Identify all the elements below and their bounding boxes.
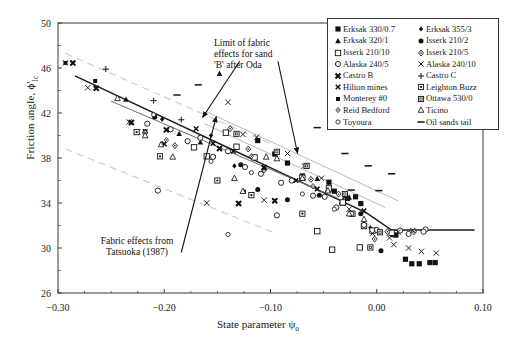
legend-item[interactable]: Ottawa 530/0 xyxy=(415,93,498,105)
legend-marker xyxy=(415,70,426,81)
data-point xyxy=(418,27,422,32)
y-tick-label: 38 xyxy=(41,153,51,164)
y-axis-label-subscript: lc xyxy=(31,76,40,82)
data-point xyxy=(310,179,312,181)
legend-item[interactable]: Castro C xyxy=(415,69,498,81)
data-point xyxy=(419,86,421,88)
legend-marker xyxy=(332,93,343,104)
data-point xyxy=(409,261,414,266)
legend-label: Isserk 210/5 xyxy=(426,47,468,57)
legend-item[interactable]: Erksak 330/0.7 xyxy=(332,23,415,35)
legend-item[interactable]: Hilton mines xyxy=(332,81,415,93)
data-point xyxy=(342,191,347,196)
data-point xyxy=(255,187,260,192)
data-point xyxy=(170,154,176,159)
legend-marker-open-square xyxy=(333,48,343,58)
data-point xyxy=(185,139,190,144)
y-axis-label-symbol: ϕ' xyxy=(24,81,36,89)
legend-label: Alaska 240/10 xyxy=(426,59,476,69)
legend-label: Erksak 330/0.7 xyxy=(343,24,395,34)
legend-marker-small-filled-square xyxy=(333,94,343,104)
data-point xyxy=(194,126,199,131)
data-point xyxy=(361,216,367,221)
legend-marker-open-diamond xyxy=(416,48,426,58)
data-point xyxy=(209,159,213,163)
data-point xyxy=(353,194,358,199)
data-point xyxy=(258,171,263,176)
data-point xyxy=(335,120,339,124)
data-point xyxy=(178,117,184,123)
legend-item[interactable]: Isserk 210/10 xyxy=(332,46,415,58)
data-point xyxy=(304,163,309,168)
data-point xyxy=(387,235,392,240)
annotation-arrows-group xyxy=(181,61,297,252)
data-point xyxy=(211,154,216,159)
data-point xyxy=(225,100,230,105)
legend-column-2: Erksak 355/3Isserk 210/2Isserk 210/5Alas… xyxy=(415,23,498,129)
legend-item[interactable]: Erksak 320/1 xyxy=(332,35,415,47)
legend-item[interactable]: Ticino xyxy=(415,104,498,116)
data-point xyxy=(340,200,345,205)
legend-label: Leighton Buzz xyxy=(426,82,477,92)
data-point xyxy=(418,38,423,43)
data-point xyxy=(145,121,150,126)
data-point xyxy=(332,207,336,211)
legend-item[interactable]: Castro B xyxy=(332,69,415,81)
data-point xyxy=(374,238,376,240)
data-point xyxy=(285,151,290,156)
line-oda-lower xyxy=(205,124,386,208)
legend-marker-small-x xyxy=(333,82,343,92)
data-point xyxy=(418,61,423,66)
data-point xyxy=(234,144,239,149)
legend-label: Ottawa 530/0 xyxy=(426,93,473,103)
legend-item[interactable]: Isserk 210/5 xyxy=(415,46,498,58)
data-point xyxy=(406,231,411,236)
data-point xyxy=(217,71,223,76)
legend-label: Alaska 240/5 xyxy=(343,59,389,69)
data-point xyxy=(368,245,373,250)
legend-item[interactable]: Alaska 240/5 xyxy=(332,58,415,70)
legend-marker-small-open-diamond xyxy=(333,105,343,115)
data-point xyxy=(198,135,203,140)
data-point xyxy=(279,180,284,185)
data-point xyxy=(155,188,160,193)
legend-marker xyxy=(415,35,426,46)
data-point xyxy=(103,66,109,72)
legend-item[interactable]: Leighton Buzz xyxy=(415,81,498,93)
data-point xyxy=(166,139,167,140)
legend-item[interactable]: Erksak 355/3 xyxy=(415,23,498,35)
legend-label: Isserk 210/10 xyxy=(343,47,390,57)
annotation-tatsuoka-line-1: Fabric effects from xyxy=(62,236,212,247)
annotation-oda-line-3: 'B' after Oda xyxy=(214,60,310,71)
legend-marker-small-open-circle xyxy=(333,117,343,127)
data-point xyxy=(418,96,423,101)
x-tick-labels: −0.30−0.20−0.100.000.10 xyxy=(46,302,491,313)
data-point xyxy=(335,61,340,66)
data-point xyxy=(223,130,228,135)
annotation-oda-line-1: Limit of fabric xyxy=(214,38,310,49)
legend-label: Reid Bedford xyxy=(343,105,390,115)
data-point xyxy=(251,156,252,157)
legend-marker-small-filled-diamond xyxy=(416,24,426,34)
data-point xyxy=(274,213,279,218)
data-point xyxy=(387,231,389,233)
legend-item[interactable]: Oil sands tail xyxy=(415,116,498,128)
legend-label: Erksak 320/1 xyxy=(343,35,389,45)
legend-item[interactable]: Toyoura xyxy=(332,116,415,128)
legend-marker-filled-circle xyxy=(416,36,426,46)
annotation-limit-of-fabric: Limit of fabric effects for sand 'B' aft… xyxy=(214,38,310,71)
annotation-oda-line-2: effects for sand xyxy=(214,49,310,60)
data-point xyxy=(232,175,238,180)
data-point xyxy=(335,50,340,55)
data-point xyxy=(418,107,424,112)
legend-item[interactable]: Alaska 240/10 xyxy=(415,58,498,70)
legend-item[interactable]: Isserk 210/2 xyxy=(415,35,498,47)
legend-item[interactable]: Monterey #0 xyxy=(332,93,415,105)
data-point xyxy=(216,179,218,181)
legend-marker-bold-x xyxy=(333,71,343,81)
data-point xyxy=(249,171,253,175)
data-point xyxy=(300,192,304,196)
data-point xyxy=(70,60,75,65)
legend-item[interactable]: Reid Bedford xyxy=(332,104,415,116)
series-alaska-240-5 xyxy=(145,121,429,236)
